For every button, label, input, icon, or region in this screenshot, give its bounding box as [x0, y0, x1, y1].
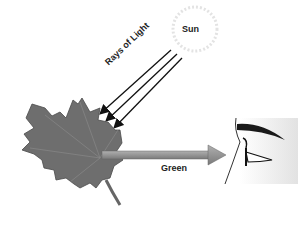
reflected-color-label: Green	[161, 163, 187, 173]
diagram-canvas	[0, 0, 302, 225]
eye-icon	[225, 118, 298, 184]
sun-label: Sun	[182, 24, 199, 34]
